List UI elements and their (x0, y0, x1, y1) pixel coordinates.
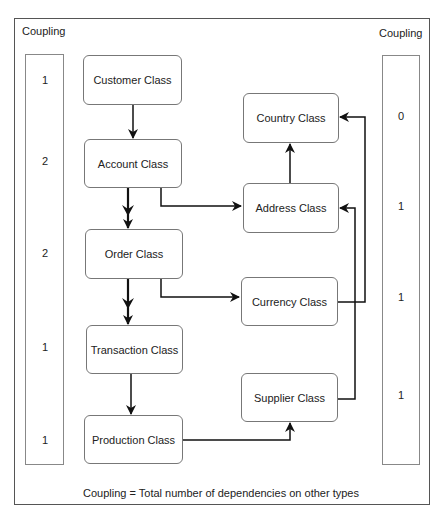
coupling-value-currency: 1 (382, 291, 420, 303)
coupling-value-customer: 1 (26, 74, 64, 86)
left-coupling-column (25, 54, 64, 465)
left-coupling-title: Coupling (22, 25, 65, 37)
coupling-value-account: 2 (26, 155, 64, 167)
class-customer: Customer Class (83, 55, 182, 105)
class-country: Country Class (243, 93, 339, 143)
coupling-definition-caption: Coupling = Total number of dependencies … (0, 487, 442, 499)
coupling-value-production: 1 (26, 434, 64, 446)
diagram-frame (14, 18, 430, 505)
class-order: Order Class (85, 229, 183, 279)
class-transaction: Transaction Class (86, 325, 183, 374)
class-production: Production Class (84, 415, 183, 464)
coupling-value-country: 0 (382, 110, 420, 122)
class-address: Address Class (243, 183, 339, 233)
coupling-value-supplier: 1 (382, 389, 420, 401)
class-supplier: Supplier Class (241, 373, 338, 422)
coupling-value-address: 1 (382, 200, 420, 212)
class-account: Account Class (84, 139, 182, 188)
right-coupling-title: Coupling (379, 27, 422, 39)
coupling-value-order: 2 (26, 247, 64, 259)
class-currency: Currency Class (241, 277, 338, 326)
coupling-value-transaction: 1 (26, 341, 64, 353)
